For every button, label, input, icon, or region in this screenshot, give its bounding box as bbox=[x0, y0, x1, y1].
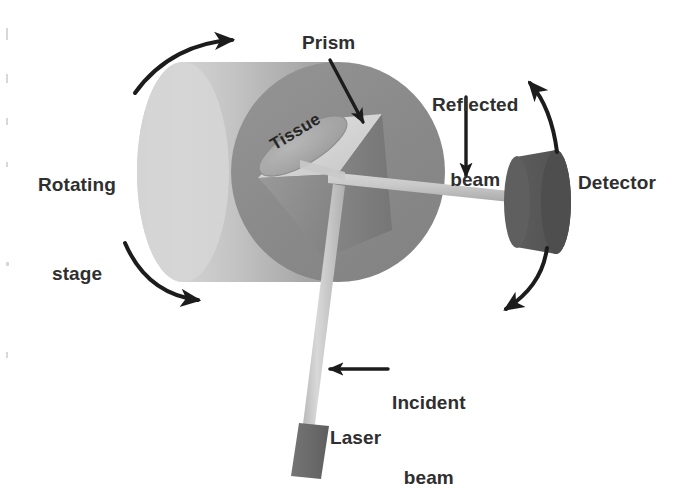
label-prism: Prism bbox=[302, 30, 355, 55]
scan-artifacts bbox=[6, 28, 9, 358]
label-reflected-beam-line1: Reflected bbox=[432, 92, 518, 117]
detector-back-face bbox=[541, 150, 571, 254]
label-rotating-stage-line1: Rotating bbox=[38, 172, 116, 197]
label-incident-beam: Incident beam bbox=[392, 340, 466, 488]
label-rotating-stage: Rotating stage bbox=[38, 122, 116, 336]
label-incident-beam-line1: Incident bbox=[392, 390, 466, 415]
label-reflected-beam-line2: beam bbox=[432, 167, 518, 192]
detector-arc-arrow-up bbox=[530, 83, 557, 152]
label-rotating-stage-line2: stage bbox=[52, 261, 116, 286]
label-reflected-beam: Reflected beam bbox=[432, 42, 518, 242]
laser-body bbox=[291, 423, 329, 479]
label-incident-beam-line2: beam bbox=[392, 465, 466, 488]
label-detector: Detector bbox=[578, 170, 656, 195]
detector-arc-arrow-down bbox=[506, 248, 547, 309]
laser-source bbox=[291, 423, 329, 479]
label-laser: Laser bbox=[330, 425, 381, 450]
stage-back-cap bbox=[137, 62, 229, 282]
